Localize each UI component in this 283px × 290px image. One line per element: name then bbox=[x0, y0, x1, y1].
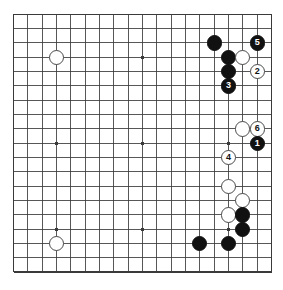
board-grid bbox=[0, 0, 283, 290]
move-number-label: 4 bbox=[222, 151, 235, 164]
go-board-diagram: 523614 bbox=[0, 0, 283, 290]
stone-white-move-4: 4 bbox=[221, 150, 236, 165]
stone-white bbox=[221, 179, 236, 194]
stone-white-move-6: 6 bbox=[250, 121, 265, 136]
stone-black-move-5: 5 bbox=[250, 35, 265, 50]
stone-black bbox=[235, 207, 250, 222]
move-number-label: 6 bbox=[251, 122, 264, 135]
stone-black-move-3: 3 bbox=[221, 78, 236, 93]
stone-black bbox=[221, 50, 236, 65]
move-number-label: 2 bbox=[251, 65, 264, 78]
move-number-label: 1 bbox=[251, 137, 264, 150]
stone-white bbox=[235, 121, 250, 136]
move-number-label: 5 bbox=[251, 36, 264, 49]
move-number-label: 3 bbox=[222, 79, 235, 92]
stone-white bbox=[221, 207, 236, 222]
stone-black bbox=[207, 35, 222, 50]
stone-white bbox=[49, 50, 64, 65]
stone-white-move-2: 2 bbox=[250, 64, 265, 79]
stone-black-move-1: 1 bbox=[250, 136, 265, 151]
